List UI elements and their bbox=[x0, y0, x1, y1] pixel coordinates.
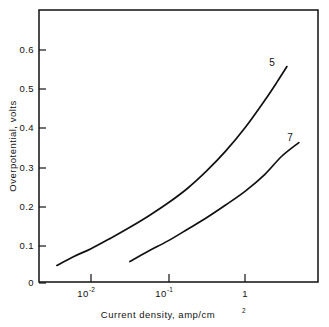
plot-frame bbox=[39, 10, 318, 282]
y-tick-label-0-5: 0.5 bbox=[20, 83, 34, 94]
x-tick-label-1e-1: 10 -1 bbox=[155, 286, 173, 299]
y-axis-ticks bbox=[39, 50, 46, 283]
x-axis-tick-labels: 10 -2 10 -1 1 bbox=[77, 286, 248, 299]
y-tick-label-0-3: 0.3 bbox=[20, 162, 34, 173]
x-tick-label-1e-1-mantissa: 10 bbox=[155, 288, 166, 299]
curve-label-5: 5 bbox=[269, 57, 275, 68]
y-tick-label-0-2: 0.2 bbox=[20, 201, 34, 212]
chart-figure: 0 0.1 0.2 0.3 0.4 0.5 0.6 10 -2 10 -1 bbox=[0, 0, 329, 327]
y-tick-label-0-4: 0.4 bbox=[20, 122, 34, 133]
x-axis-title-superscript: 2 bbox=[242, 307, 246, 314]
x-axis-title: Current density, amp/cm 2 bbox=[101, 307, 246, 320]
y-tick-label-0-1: 0.1 bbox=[20, 240, 34, 251]
overpotential-vs-current-density-chart: 0 0.1 0.2 0.3 0.4 0.5 0.6 10 -2 10 -1 bbox=[0, 0, 329, 327]
y-axis-tick-labels: 0 0.1 0.2 0.3 0.4 0.5 0.6 bbox=[20, 44, 34, 288]
y-tick-label-0: 0 bbox=[28, 277, 34, 288]
x-tick-label-1e-2: 10 -2 bbox=[77, 286, 95, 299]
curve-label-7: 7 bbox=[287, 132, 293, 143]
curve-labels: 5 7 bbox=[269, 57, 293, 143]
x-axis-title-text: Current density, amp/cm bbox=[101, 309, 215, 320]
x-axis-ticks bbox=[91, 274, 245, 282]
curve-series-7 bbox=[130, 143, 299, 262]
x-tick-label-1e-2-exponent: -2 bbox=[89, 286, 95, 293]
y-tick-label-0-6: 0.6 bbox=[20, 44, 34, 55]
x-tick-label-1: 1 bbox=[242, 288, 248, 299]
x-tick-label-1e-2-mantissa: 10 bbox=[77, 288, 88, 299]
x-tick-label-1e-1-exponent: -1 bbox=[167, 286, 173, 293]
x-tick-label-1-mantissa: 1 bbox=[242, 288, 248, 299]
data-curves bbox=[57, 67, 299, 266]
y-axis-title-text: Overpotential, volts bbox=[7, 100, 18, 191]
curve-series-5 bbox=[57, 67, 287, 266]
